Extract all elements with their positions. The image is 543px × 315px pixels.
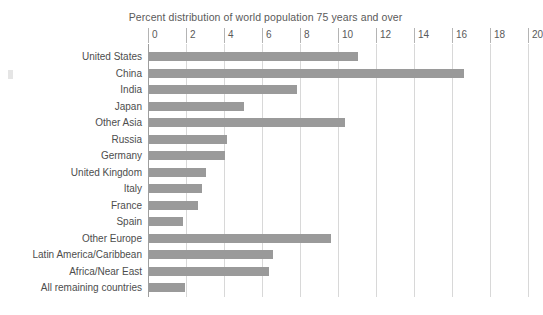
category-label: United Kingdom xyxy=(71,167,142,178)
tick-mark-18 xyxy=(490,28,491,43)
category-label: China xyxy=(116,68,142,79)
chart-title: Percent distribution of world population… xyxy=(0,11,531,23)
x-axis-tick-row: 02468101214161820 xyxy=(148,28,538,44)
bar xyxy=(149,52,358,61)
x-tick-label: 14 xyxy=(418,29,429,40)
category-label: All remaining countries xyxy=(41,282,142,293)
tick-mark-6 xyxy=(262,28,263,43)
category-label: United States xyxy=(82,51,142,62)
tick-mark-8 xyxy=(300,28,301,43)
bar xyxy=(149,69,464,78)
category-label: Germany xyxy=(101,150,142,161)
tick-mark-2 xyxy=(186,28,187,43)
bar xyxy=(149,283,185,292)
x-tick-label: 12 xyxy=(380,29,391,40)
gridline-14 xyxy=(414,44,415,297)
category-label: Latin America/Caribbean xyxy=(32,249,142,260)
category-label: Spain xyxy=(116,216,142,227)
bar xyxy=(149,168,206,177)
category-label: India xyxy=(120,84,142,95)
tick-mark-10 xyxy=(338,28,339,43)
x-tick-label: 10 xyxy=(342,29,353,40)
tick-mark-14 xyxy=(414,28,415,43)
category-label: Other Asia xyxy=(95,117,142,128)
bar xyxy=(149,234,331,243)
gridline-18 xyxy=(490,44,491,297)
bar xyxy=(149,135,227,144)
x-tick-label: 4 xyxy=(228,29,234,40)
category-axis-labels: United StatesChinaIndiaJapanOther AsiaRu… xyxy=(0,44,145,297)
category-label: Japan xyxy=(115,101,142,112)
bar xyxy=(149,102,244,111)
category-label: Other Europe xyxy=(82,233,142,244)
bar xyxy=(149,118,345,127)
bar xyxy=(149,250,273,259)
bar xyxy=(149,85,297,94)
tick-mark-20 xyxy=(528,28,529,43)
category-label: France xyxy=(111,200,142,211)
gridline-6 xyxy=(262,44,263,297)
gridline-10 xyxy=(338,44,339,297)
tick-mark-0 xyxy=(148,28,149,43)
x-tick-label: 8 xyxy=(304,29,310,40)
gridline-12 xyxy=(376,44,377,297)
gridline-20 xyxy=(528,44,529,297)
tick-mark-16 xyxy=(452,28,453,43)
gridline-8 xyxy=(300,44,301,297)
gridline-4 xyxy=(224,44,225,297)
bar xyxy=(149,267,269,276)
x-tick-label: 16 xyxy=(456,29,467,40)
x-tick-label: 2 xyxy=(190,29,196,40)
category-label: Africa/Near East xyxy=(69,266,142,277)
plot-area xyxy=(148,44,528,297)
tick-mark-12 xyxy=(376,28,377,43)
x-tick-label: 18 xyxy=(494,29,505,40)
bar xyxy=(149,184,202,193)
x-tick-label: 0 xyxy=(152,29,158,40)
gridline-16 xyxy=(452,44,453,297)
bar xyxy=(149,217,183,226)
category-label: Russia xyxy=(111,134,142,145)
tick-mark-4 xyxy=(224,28,225,43)
bar xyxy=(149,201,198,210)
x-tick-label: 20 xyxy=(532,29,543,40)
bar xyxy=(149,151,225,160)
category-label: Italy xyxy=(124,183,142,194)
x-tick-label: 6 xyxy=(266,29,272,40)
